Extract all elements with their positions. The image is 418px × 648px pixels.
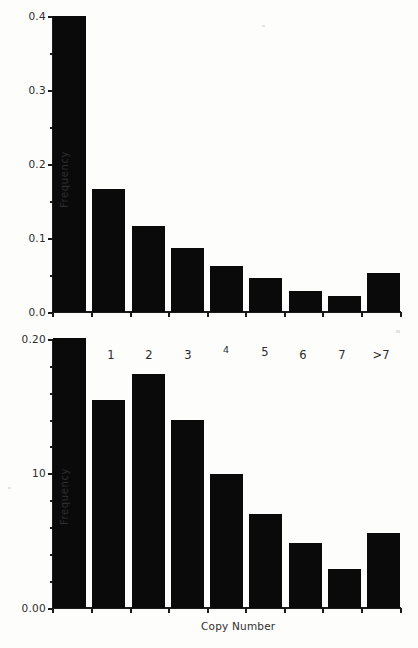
scan-speck bbox=[396, 330, 400, 333]
y-tick-label-top-0: 0.4 bbox=[28, 10, 46, 22]
x-tick-bottom-9 bbox=[400, 608, 402, 613]
bar-top-6 bbox=[289, 291, 322, 312]
bar-series-top bbox=[53, 16, 400, 312]
y-axis-title-top: Frequency bbox=[59, 151, 70, 208]
x-tick-bottom-3 bbox=[168, 608, 170, 613]
bar-bottom-1 bbox=[92, 400, 125, 608]
bar-bottom-8 bbox=[367, 533, 400, 608]
x-tick-top-9 bbox=[400, 312, 402, 317]
bar-bottom-2 bbox=[132, 374, 165, 608]
x-tick-bottom-4 bbox=[207, 608, 209, 613]
x-tick-top-2 bbox=[130, 312, 132, 317]
plot-area-top: 0.4 0.3 0.2 0.1 0.0 bbox=[53, 16, 400, 312]
x-tick-bottom-7 bbox=[322, 608, 324, 613]
bar-bottom-5 bbox=[249, 514, 282, 608]
scan-speck bbox=[8, 487, 11, 489]
bar-bottom-4 bbox=[210, 474, 243, 609]
bar-series-bottom bbox=[53, 339, 400, 608]
x-tick-bottom-0 bbox=[52, 608, 54, 613]
x-tick-bottom-5 bbox=[245, 608, 247, 613]
y-tick-label-top-2: 0.2 bbox=[28, 158, 46, 170]
scan-speck bbox=[262, 25, 265, 27]
bar-top-1 bbox=[92, 189, 125, 312]
bar-top-7 bbox=[328, 296, 361, 312]
y-tick-label-bottom-1: 10 bbox=[32, 467, 46, 479]
x-tick-bottom-6 bbox=[284, 608, 286, 613]
y-axis-title-bottom: Frequency bbox=[59, 468, 70, 525]
bar-bottom-3 bbox=[171, 420, 204, 608]
chart-panel-top: 0.4 0.3 0.2 0.1 0.0 bbox=[0, 0, 418, 330]
bar-top-5 bbox=[249, 278, 282, 312]
x-tick-bottom-8 bbox=[361, 608, 363, 613]
y-tick-label-bottom-0: 0.20 bbox=[21, 333, 46, 345]
x-axis-title-bottom: Copy Number bbox=[201, 620, 275, 632]
x-tick-bottom-2 bbox=[130, 608, 132, 613]
x-tick-top-4 bbox=[207, 312, 209, 317]
y-tick-label-top-4: 0.0 bbox=[28, 306, 46, 318]
y-tick-label-top-1: 0.3 bbox=[28, 84, 46, 96]
x-tick-top-5 bbox=[245, 312, 247, 317]
x-tick-top-3 bbox=[168, 312, 170, 317]
x-tick-bottom-1 bbox=[91, 608, 93, 613]
bar-top-3 bbox=[171, 248, 204, 312]
bar-top-4 bbox=[210, 266, 243, 312]
bar-bottom-6 bbox=[289, 543, 322, 608]
x-tick-top-8 bbox=[361, 312, 363, 317]
chart-panel-bottom: 0.20 10 0.00 0 bbox=[0, 318, 418, 648]
bar-top-8 bbox=[367, 273, 400, 312]
x-tick-top-7 bbox=[322, 312, 324, 317]
bar-bottom-7 bbox=[328, 569, 361, 608]
x-tick-top-6 bbox=[284, 312, 286, 317]
figure-two-panel-histogram: 0.4 0.3 0.2 0.1 0.0 bbox=[0, 0, 418, 648]
plot-area-bottom: 0.20 10 0.00 0 bbox=[53, 339, 400, 608]
bar-top-2 bbox=[132, 226, 165, 312]
y-tick-label-bottom-2: 0.00 bbox=[21, 602, 46, 614]
x-tick-top-1 bbox=[91, 312, 93, 317]
y-tick-label-top-3: 0.1 bbox=[28, 232, 46, 244]
x-tick-top-0 bbox=[52, 312, 54, 317]
